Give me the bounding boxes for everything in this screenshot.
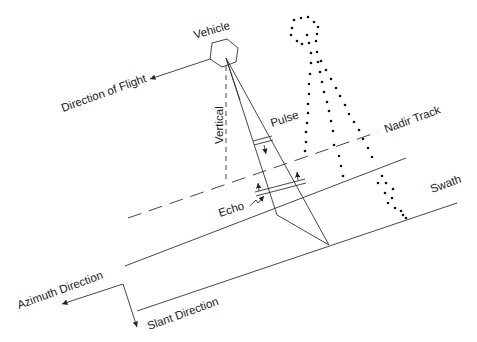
vehicle-icon bbox=[210, 39, 238, 67]
azimuth-direction-label: Azimuth Direction bbox=[16, 269, 105, 311]
pulse-arrow bbox=[264, 145, 266, 154]
slant-direction-arrow bbox=[123, 284, 137, 327]
echo-arrow-2 bbox=[297, 172, 298, 180]
direction-of-flight-arrow bbox=[150, 59, 210, 79]
pulse-bar-1 bbox=[253, 136, 272, 141]
beam-far-edge bbox=[226, 58, 329, 245]
direction-of-flight-label: Direction of Flight bbox=[60, 72, 149, 114]
pulse-label: Pulse bbox=[269, 109, 300, 129]
slant-direction-label: Slant Direction bbox=[146, 295, 220, 332]
nadir-track-line bbox=[128, 132, 378, 218]
swath-near-line bbox=[125, 158, 406, 266]
nadir-track-label: Nadir Track bbox=[383, 103, 443, 134]
pulse-bar-2 bbox=[254, 140, 273, 145]
echo-lightning-icon bbox=[250, 196, 264, 206]
vertical-label: Vertical bbox=[213, 106, 225, 144]
swath-far-line bbox=[137, 203, 457, 311]
swath-label: Swath bbox=[429, 173, 463, 195]
vehicle-label: Vehicle bbox=[192, 19, 231, 41]
echo-label: Echo bbox=[217, 199, 246, 219]
dotted-vehicle-trace bbox=[290, 16, 320, 46]
echo-arrow-1 bbox=[258, 183, 259, 191]
sar-geometry-diagram: Vehicle Direction of Flight Vertical Pul… bbox=[0, 0, 477, 342]
dotted-beam-traces bbox=[304, 51, 408, 220]
